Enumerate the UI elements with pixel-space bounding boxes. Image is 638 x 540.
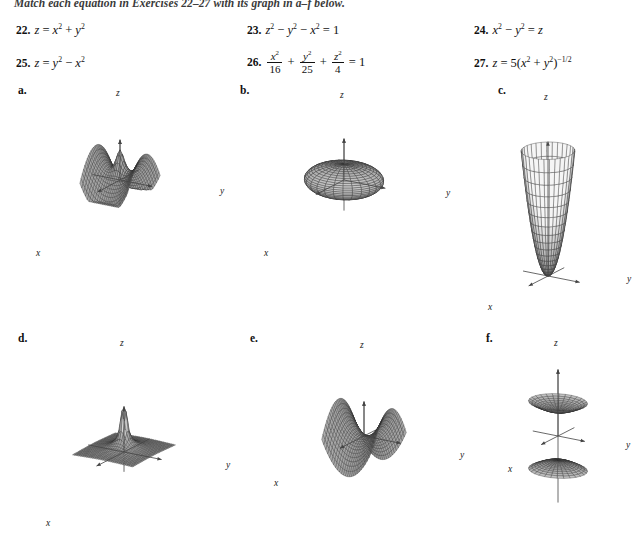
exercise-instruction: Match each equation in Exercises 22–27 w…	[14, 0, 345, 9]
svg-text:x: x	[263, 248, 269, 258]
fraction-y2-25: y225	[300, 49, 315, 76]
svg-text:z: z	[359, 340, 364, 350]
figure-a-plot: zxy	[12, 84, 234, 264]
exercise-26-equation: x216 + y225 + z24 = 1	[265, 55, 365, 69]
exercise-24-number: 24.	[474, 24, 488, 36]
exercise-22-number: 22.	[16, 24, 30, 36]
svg-text:y: y	[625, 440, 631, 450]
fraction-z2-4: z24	[332, 49, 344, 76]
exercise-25: 25.z = y2 − x2	[16, 55, 85, 71]
svg-text:y: y	[626, 274, 632, 284]
svg-text:x: x	[45, 518, 51, 528]
svg-text:x: x	[273, 478, 279, 488]
figure-d: d. zxy	[12, 332, 240, 532]
svg-text:z: z	[115, 88, 120, 98]
exercise-22: 22.z = x2 + y2	[16, 22, 85, 38]
exercise-23-equation: z2 − y2 − x2 = 1	[265, 23, 339, 37]
svg-text:z: z	[553, 338, 558, 348]
svg-text:z: z	[543, 92, 548, 102]
fraction-x2-16: x216	[267, 49, 282, 76]
exercise-27-equation: z = 5(x2 + y2)−1/2	[492, 56, 571, 70]
svg-text:y: y	[445, 188, 451, 198]
exercise-25-equation: z = y2 − x2	[34, 56, 84, 70]
figure-f: f. zxy	[486, 332, 638, 540]
svg-text:y: y	[219, 186, 225, 196]
exercise-23-number: 23.	[247, 24, 261, 36]
svg-text:z: z	[339, 90, 344, 100]
exercise-25-number: 25.	[16, 57, 30, 69]
svg-text:x: x	[507, 464, 513, 474]
figure-c-plot: zxy	[464, 84, 638, 314]
svg-text:y: y	[225, 460, 231, 470]
figure-a: a. zxy	[12, 84, 234, 264]
exercise-24: 24.x2 − y2 = z	[474, 22, 543, 38]
figure-e: e. zxy	[248, 332, 476, 532]
svg-text:x: x	[487, 302, 493, 312]
figure-c: c. zxy	[464, 84, 638, 314]
exercise-23: 23.z2 − y2 − x2 = 1	[247, 22, 339, 38]
exercise-26-number: 26.	[247, 56, 261, 68]
svg-text:z: z	[119, 338, 124, 348]
figure-f-plot: zxy	[486, 332, 638, 540]
figure-d-plot: zxy	[12, 332, 240, 532]
exercise-22-equation: z = x2 + y2	[34, 23, 84, 37]
exercise-27: 27.z = 5(x2 + y2)−1/2	[474, 55, 572, 71]
svg-text:y: y	[459, 450, 465, 460]
exercise-27-number: 27.	[474, 57, 488, 69]
figure-b-plot: zxy	[236, 84, 458, 264]
exercise-24-equation: x2 − y2 = z	[492, 23, 542, 37]
figure-b: b. zxy	[236, 84, 458, 264]
exercise-26: 26.x216 + y225 + z24 = 1	[247, 50, 365, 77]
figure-e-plot: zxy	[248, 332, 476, 532]
textbook-page: Match each equation in Exercises 22–27 w…	[0, 0, 638, 540]
svg-text:x: x	[35, 248, 41, 258]
